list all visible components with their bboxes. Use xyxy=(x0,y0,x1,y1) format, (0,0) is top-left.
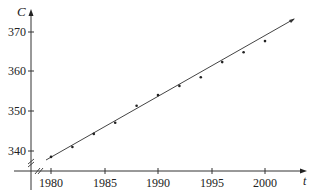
data-point xyxy=(114,122,117,125)
data-point xyxy=(93,133,96,136)
linear-fit-line xyxy=(46,19,294,160)
data-point xyxy=(50,156,53,159)
x-tick-label: 1985 xyxy=(93,176,117,190)
x-tick-label: 1980 xyxy=(39,176,63,190)
y-ticks: 370 360 350 340 xyxy=(8,25,34,158)
y-tick-label: 350 xyxy=(8,104,26,118)
data-point xyxy=(71,146,74,149)
y-tick-label: 370 xyxy=(8,25,26,39)
y-tick-label: 360 xyxy=(8,64,26,78)
data-point xyxy=(135,105,138,108)
x-tick-label: 1995 xyxy=(200,176,224,190)
data-point xyxy=(221,61,224,64)
data-point xyxy=(178,85,181,88)
data-point xyxy=(200,76,203,79)
x-tick-label: 2000 xyxy=(253,176,277,190)
x-axis-arrow-icon xyxy=(300,169,307,174)
co2-scatter-chart: C t 370 360 350 340 1980 1985 1990 1995 … xyxy=(0,0,314,196)
data-point xyxy=(157,94,160,97)
y-tick-label: 340 xyxy=(8,144,26,158)
fit-line-arrow-icon xyxy=(289,19,295,24)
x-tick-label: 1990 xyxy=(146,176,170,190)
x-axis-label: t xyxy=(303,174,307,188)
data-points xyxy=(50,40,267,158)
y-axis-label: C xyxy=(17,4,26,19)
data-point xyxy=(242,51,245,54)
y-axis-arrow-icon xyxy=(29,9,34,16)
data-point xyxy=(264,40,267,43)
